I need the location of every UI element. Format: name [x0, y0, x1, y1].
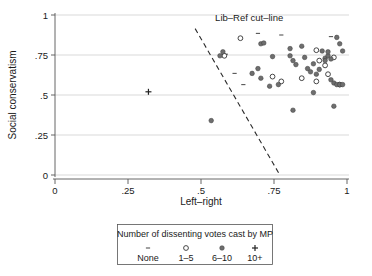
series-plus — [145, 89, 151, 95]
data-point-filled-circle — [288, 46, 293, 51]
data-point-filled-circle — [334, 35, 339, 40]
y-tick-label: .75 — [35, 50, 48, 61]
x-tick-label: .75 — [267, 185, 280, 196]
data-point-filled-circle — [299, 44, 304, 49]
y-axis — [51, 13, 55, 177]
series-filled-circle — [209, 35, 345, 123]
cut-line-group — [195, 29, 280, 175]
data-point-filled-circle — [261, 41, 266, 46]
data-point-filled-circle — [267, 84, 272, 89]
cut-line-annotation: Lib–Ref cut–line — [215, 12, 283, 23]
data-point-open-circle — [270, 74, 275, 79]
data-point-filled-circle — [314, 72, 319, 77]
x-axis-title: Left–right — [180, 196, 222, 207]
y-axis-title: Social conservatism — [7, 51, 18, 140]
data-point-legend-plus — [252, 245, 258, 251]
data-point-legend-open-circle — [184, 246, 189, 251]
data-point-open-circle — [323, 63, 328, 68]
data-point-plus — [145, 89, 151, 95]
data-point-open-circle — [238, 36, 243, 41]
data-point-filled-circle — [320, 49, 325, 54]
data-point-filled-circle — [311, 90, 316, 95]
data-point-filled-circle — [218, 54, 223, 59]
y-tick-labels: 0.25.5.751 — [35, 10, 48, 181]
x-tick-label: 0 — [52, 185, 57, 196]
scatter-chart-figure: 0.25.5.751 0.25.5.751 Social conservatis… — [0, 0, 372, 276]
data-point-filled-circle — [221, 50, 226, 55]
x-tick-label: .5 — [197, 185, 205, 196]
legend-labels: None1–56–1010+ — [137, 253, 262, 263]
data-point-filled-circle — [256, 66, 261, 71]
data-point-filled-circle — [337, 42, 342, 47]
data-point-open-circle — [317, 58, 322, 63]
data-point-open-circle — [314, 48, 319, 53]
data-point-filled-circle — [209, 118, 214, 123]
y-tick-label: 0 — [43, 170, 48, 181]
y-tick-label: .5 — [40, 90, 48, 101]
data-point-filled-circle — [308, 70, 313, 75]
data-point-filled-circle — [326, 50, 331, 55]
data-point-filled-circle — [288, 54, 293, 59]
annotation-group: Lib–Ref cut–line — [215, 12, 283, 23]
x-tick-label: 1 — [344, 185, 349, 196]
data-point-filled-circle — [332, 104, 337, 109]
x-tick-label: .25 — [121, 185, 134, 196]
y-tick-label: 1 — [43, 10, 48, 21]
data-point-filled-circle — [270, 54, 275, 59]
data-point-filled-circle — [329, 57, 334, 62]
legend-label-2: 6–10 — [212, 253, 232, 263]
data-point-filled-circle — [259, 76, 264, 81]
legend: Number of dissenting votes cast by MP No… — [117, 225, 273, 265]
data-point-filled-circle — [276, 82, 281, 87]
data-point-filled-circle — [317, 67, 322, 72]
legend-label-3: 10+ — [247, 253, 262, 263]
series-dash — [224, 33, 333, 84]
data-point-open-circle — [299, 76, 304, 81]
y-tick-label: .25 — [35, 130, 48, 141]
cut-line — [195, 29, 280, 175]
legend-title: Number of dissenting votes cast by MP — [117, 229, 273, 239]
data-point-filled-circle — [291, 58, 296, 63]
data-points-layer — [145, 33, 344, 122]
data-point-filled-circle — [340, 82, 345, 87]
x-tick-labels: 0.25.5.751 — [52, 185, 349, 196]
legend-label-0: None — [137, 253, 159, 263]
data-point-open-circle — [314, 79, 319, 84]
data-point-filled-circle — [294, 62, 299, 67]
data-point-filled-circle — [311, 62, 316, 67]
data-point-filled-circle — [291, 108, 296, 113]
x-axis — [53, 179, 349, 184]
data-point-filled-circle — [250, 71, 255, 76]
data-point-open-circle — [326, 72, 331, 77]
gridlines — [55, 15, 349, 175]
chart-canvas: 0.25.5.751 0.25.5.751 Social conservatis… — [0, 0, 372, 276]
data-point-filled-circle — [302, 55, 307, 60]
data-point-legend-filled-circle — [220, 246, 225, 251]
data-point-filled-circle — [323, 58, 328, 63]
legend-label-1: 1–5 — [178, 253, 193, 263]
data-point-filled-circle — [340, 49, 345, 54]
legend-markers — [146, 245, 258, 251]
